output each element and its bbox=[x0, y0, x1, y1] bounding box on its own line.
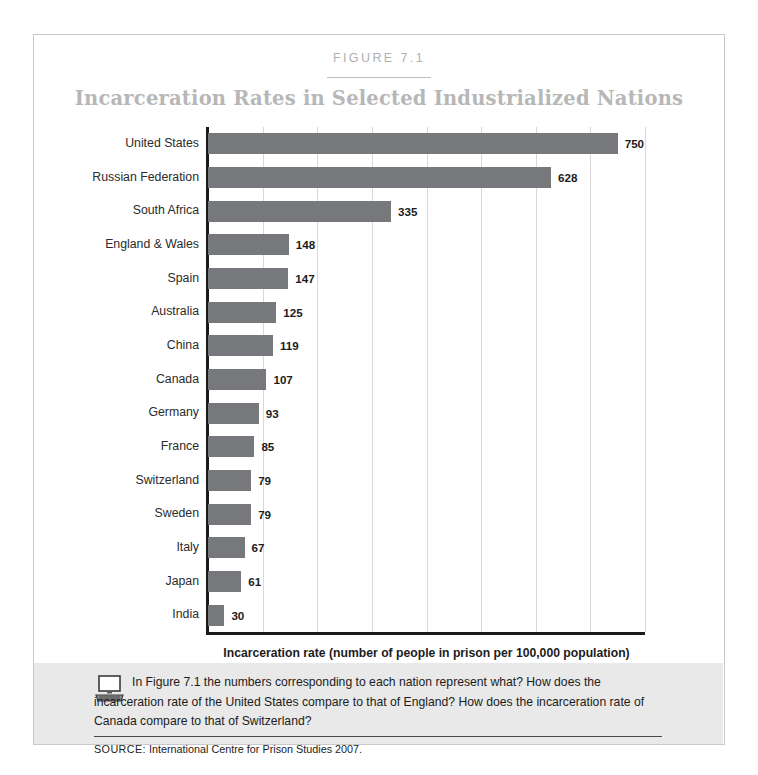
bar-rows: United States750Russian Federation628Sou… bbox=[34, 127, 726, 632]
bar-row: United States750 bbox=[34, 127, 726, 161]
bar-value-label: 67 bbox=[252, 537, 265, 558]
figure-title: Incarceration Rates in Selected Industri… bbox=[34, 87, 724, 110]
bar bbox=[208, 369, 266, 390]
bar-value-label: 79 bbox=[258, 470, 271, 491]
bar-category-label: Canada bbox=[34, 363, 199, 397]
x-axis-line bbox=[206, 632, 645, 635]
bar-category-label: Sweden bbox=[34, 497, 199, 531]
bar-value-label: 148 bbox=[296, 234, 315, 255]
question-box: In Figure 7.1 the numbers corresponding … bbox=[34, 663, 723, 744]
bar-category-label: United States bbox=[34, 127, 199, 161]
bar bbox=[208, 470, 251, 491]
bar bbox=[208, 403, 259, 424]
source-divider bbox=[94, 736, 662, 737]
bar-value-label: 125 bbox=[283, 302, 302, 323]
bar bbox=[208, 234, 289, 255]
bar bbox=[208, 571, 241, 592]
bar-category-label: England & Wales bbox=[34, 228, 199, 262]
bar-row: Italy67 bbox=[34, 531, 726, 565]
bar bbox=[208, 605, 224, 626]
bar-category-label: Spain bbox=[34, 262, 199, 296]
bar bbox=[208, 335, 273, 356]
bar-row: China119 bbox=[34, 329, 726, 363]
bar-row: France85 bbox=[34, 430, 726, 464]
bar-value-label: 61 bbox=[248, 571, 261, 592]
bar bbox=[208, 436, 254, 457]
bar-value-label: 107 bbox=[273, 369, 292, 390]
bar-value-label: 147 bbox=[295, 268, 314, 289]
figure-header-divider bbox=[327, 77, 431, 78]
source-keyword: SOURCE: bbox=[94, 743, 146, 755]
source-text: International Centre for Prison Studies … bbox=[149, 743, 362, 755]
figure-number-label: FIGURE 7.1 bbox=[34, 51, 724, 65]
figure-frame: FIGURE 7.1 Incarceration Rates in Select… bbox=[33, 34, 725, 745]
source-line: SOURCE: International Centre for Prison … bbox=[94, 743, 694, 755]
bar bbox=[208, 167, 551, 188]
bar-category-label: Japan bbox=[34, 565, 199, 599]
bar-row: Germany93 bbox=[34, 396, 726, 430]
bar-value-label: 335 bbox=[398, 201, 417, 222]
bar-row: South Africa335 bbox=[34, 194, 726, 228]
bar-row: Sweden79 bbox=[34, 497, 726, 531]
bar-row: India30 bbox=[34, 598, 726, 632]
bar-category-label: Switzerland bbox=[34, 464, 199, 498]
bar-category-label: China bbox=[34, 329, 199, 363]
bar-category-label: Russian Federation bbox=[34, 161, 199, 195]
bar-value-label: 93 bbox=[266, 403, 279, 424]
bar-category-label: Australia bbox=[34, 295, 199, 329]
x-axis-title: Incarceration rate (number of people in … bbox=[208, 646, 645, 660]
bar-value-label: 628 bbox=[558, 167, 577, 188]
bar bbox=[208, 302, 276, 323]
bar-row: Spain147 bbox=[34, 262, 726, 296]
bar bbox=[208, 268, 288, 289]
bar-chart: United States750Russian Federation628Sou… bbox=[34, 127, 726, 667]
bar-row: Russian Federation628 bbox=[34, 161, 726, 195]
bar-category-label: South Africa bbox=[34, 194, 199, 228]
bar-value-label: 750 bbox=[625, 133, 644, 154]
bar-row: Switzerland79 bbox=[34, 464, 726, 498]
bar bbox=[208, 201, 391, 222]
bar bbox=[208, 133, 618, 154]
bar-row: England & Wales148 bbox=[34, 228, 726, 262]
bar-value-label: 85 bbox=[261, 436, 274, 457]
bar-category-label: Italy bbox=[34, 531, 199, 565]
question-text: In Figure 7.1 the numbers corresponding … bbox=[94, 673, 662, 732]
bar-category-label: Germany bbox=[34, 396, 199, 430]
bar-category-label: India bbox=[34, 598, 199, 632]
bar-row: Canada107 bbox=[34, 363, 726, 397]
bar-row: Japan61 bbox=[34, 565, 726, 599]
bar-row: Australia125 bbox=[34, 295, 726, 329]
bar bbox=[208, 537, 245, 558]
bar-value-label: 30 bbox=[231, 605, 244, 626]
bar bbox=[208, 504, 251, 525]
bar-value-label: 79 bbox=[258, 504, 271, 525]
bar-category-label: France bbox=[34, 430, 199, 464]
bar-value-label: 119 bbox=[280, 335, 299, 356]
